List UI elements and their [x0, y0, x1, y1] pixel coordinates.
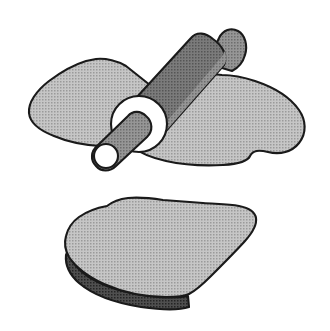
illustration-canvas: [0, 0, 330, 331]
illustration-svg: [0, 0, 330, 331]
upper-scene: [29, 29, 305, 170]
pin-handle-near-tip: [94, 144, 118, 168]
lower-scene: [65, 198, 256, 310]
